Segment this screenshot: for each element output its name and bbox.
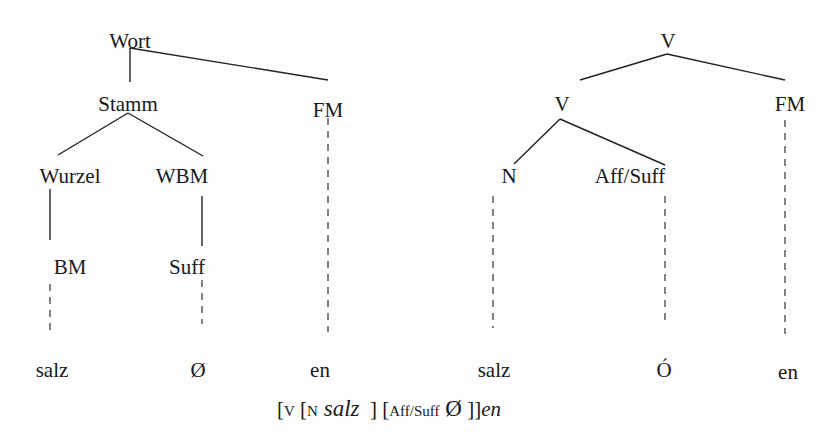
formula-sub-v: V xyxy=(284,403,295,419)
formula-close-all: ]] xyxy=(462,397,481,421)
node-wort: Wort xyxy=(109,29,151,53)
bracket-formula: [V [N salz ] [Aff/Suff Ø ]]en xyxy=(277,396,501,421)
formula-open-v: [ xyxy=(277,397,284,421)
edge-vmid-n xyxy=(514,119,560,164)
edge-v-vmid xyxy=(580,54,667,80)
edge-stamm-wurzel xyxy=(58,113,128,155)
edge-wort-fm xyxy=(130,48,328,80)
formula-null: Ø xyxy=(440,396,462,421)
formula-close-n: ] [ xyxy=(359,397,389,421)
node-suff: Suff xyxy=(169,255,205,279)
node-v-root: V xyxy=(660,29,675,53)
edge-stamm-wbm xyxy=(128,113,203,156)
node-n: N xyxy=(501,164,516,188)
formula-sub-aff: Aff/Suff xyxy=(389,403,439,419)
terminal-en-left: en xyxy=(310,358,330,382)
formula-word: salz xyxy=(318,396,360,421)
formula-open-n: [ xyxy=(295,397,307,421)
right-tree: V V FM N Aff/Suff salz Ó en xyxy=(478,29,806,384)
node-bm: BM xyxy=(54,255,87,279)
terminal-salz-right: salz xyxy=(478,358,511,382)
node-aff-suff: Aff/Suff xyxy=(595,164,665,188)
node-wbm: WBM xyxy=(156,164,209,188)
left-tree: Wort Stamm FM Wurzel WBM BM Suff salz Ø … xyxy=(36,29,344,382)
morphology-diagram: Wort Stamm FM Wurzel WBM BM Suff salz Ø … xyxy=(0,0,837,443)
terminal-null-left: Ø xyxy=(190,358,205,382)
node-stamm: Stamm xyxy=(98,92,158,116)
node-wurzel: Wurzel xyxy=(40,164,101,188)
edge-v-fm xyxy=(667,54,785,80)
formula-sub-n: N xyxy=(307,403,318,419)
node-fm-left: FM xyxy=(313,98,344,122)
terminal-null-right: Ó xyxy=(656,358,671,382)
tree-diagram-svg: Wort Stamm FM Wurzel WBM BM Suff salz Ø … xyxy=(0,0,837,443)
formula-suffix: en xyxy=(481,397,501,421)
node-v-mid: V xyxy=(554,92,569,116)
terminal-en-right: en xyxy=(778,360,798,384)
edge-vmid-affsuff xyxy=(560,119,665,165)
terminal-salz-left: salz xyxy=(36,358,69,382)
node-fm-right: FM xyxy=(775,92,806,116)
